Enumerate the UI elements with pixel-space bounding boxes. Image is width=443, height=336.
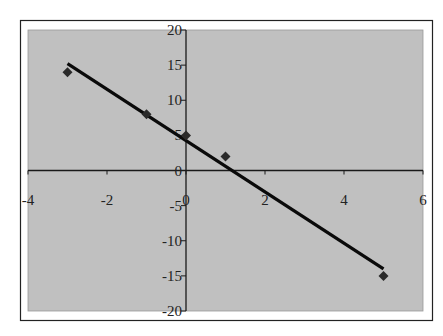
x-tick-label: 4 (340, 192, 348, 208)
chart: -4-20246-20-15-10-505101520 (0, 0, 443, 336)
x-tick-label: 0 (182, 192, 190, 208)
y-tick-label: 15 (167, 57, 182, 73)
y-tick-label: -15 (162, 268, 182, 284)
x-tick-label: -4 (22, 192, 35, 208)
y-tick-label: 20 (167, 22, 182, 38)
x-tick-label: -2 (101, 192, 114, 208)
y-tick-label: 0 (175, 163, 183, 179)
x-tick-label: 6 (419, 192, 427, 208)
y-tick-label: -5 (170, 198, 183, 214)
y-tick-label: -10 (162, 233, 182, 249)
y-tick-label: 10 (167, 92, 182, 108)
y-tick-label: -20 (162, 303, 182, 319)
